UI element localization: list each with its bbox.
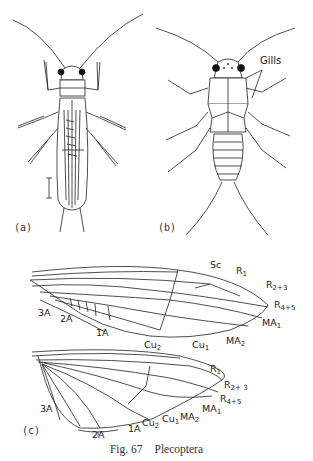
forewing-label-1a: 1A	[96, 328, 109, 338]
figure-title: Plecoptera	[155, 443, 204, 455]
figure-caption: Fig. 67Plecoptera	[0, 443, 313, 455]
hindwing-label-cu2: Cu2	[142, 418, 159, 430]
forewing-label-cu1: Cu1	[192, 340, 209, 352]
hindwing-label-cu1: Cu1	[162, 414, 179, 426]
forewing-label-r4-5: R4+5	[274, 300, 295, 312]
gills-annotation: Gills	[260, 56, 281, 66]
hindwing-label-r4-5: R4+5	[220, 394, 241, 406]
forewing-label-r1: R1	[236, 266, 247, 278]
forewing-label-ma2: MA2	[226, 336, 245, 348]
hindwing-label-ma1: MA1	[202, 404, 221, 416]
hindwing-label-r2-3: R2+ 3	[224, 380, 248, 392]
panel-label-a: (a)	[14, 222, 32, 233]
forewing-drawing	[30, 266, 268, 337]
figure-illustration	[0, 0, 313, 461]
hindwing-label-r1: R1	[210, 364, 221, 376]
forewing-label-ma1: MA1	[262, 318, 281, 330]
forewing-label-2a: 2A	[60, 314, 73, 324]
panel-label-b: (b)	[158, 222, 176, 233]
hindwing-label-ma2: MA2	[180, 412, 199, 424]
figure-number: Fig. 67	[110, 443, 143, 455]
forewing-label-cu2: Cu2	[144, 340, 161, 352]
forewing-label-r2-3: R2+3	[266, 280, 287, 292]
forewing-label-sc: Sc	[210, 260, 221, 270]
hindwing-label-2a: 2A	[92, 430, 105, 440]
hindwing-label-1a: 1A	[128, 424, 141, 434]
adult-stonefly-drawing	[13, 14, 143, 232]
panel-label-c: (c)	[22, 425, 40, 436]
forewing-label-3a: 3A	[38, 308, 51, 318]
hindwing-label-3a: 3A	[40, 404, 53, 414]
